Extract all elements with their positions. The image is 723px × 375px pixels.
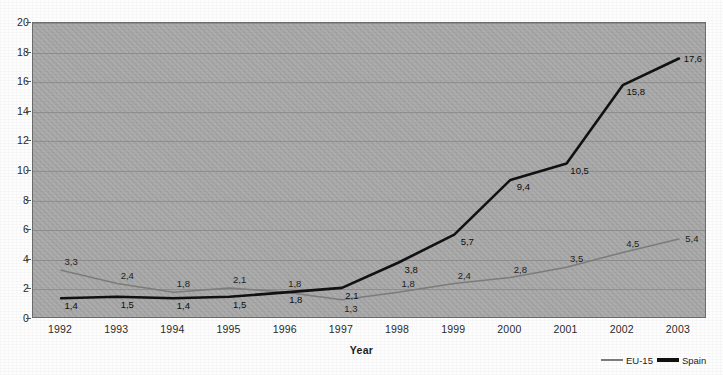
- data-label: 1,4: [64, 300, 77, 311]
- data-label: 5,4: [685, 233, 698, 244]
- legend-label-eu15: EU-15: [626, 355, 653, 366]
- series-lines: [33, 23, 706, 318]
- data-label: 1,8: [289, 294, 302, 305]
- data-label: 1,3: [344, 302, 357, 313]
- legend-item-spain: Spain: [657, 355, 706, 366]
- data-label: 2,1: [233, 273, 246, 284]
- line-chart: 02468101214161820 1992199319941995199619…: [0, 0, 723, 375]
- x-axis-tick-label: 1997: [314, 323, 368, 335]
- x-axis-tick-label: 2000: [482, 323, 536, 335]
- legend-swatch-spain-icon: [657, 358, 679, 362]
- y-axis-tick-mark: [26, 200, 31, 201]
- data-label: 3,3: [64, 256, 77, 267]
- x-axis-tick-label: 1993: [89, 323, 143, 335]
- y-axis-tick-mark: [26, 170, 31, 171]
- data-label: 4,5: [626, 238, 639, 249]
- data-label: 2,4: [121, 269, 134, 280]
- x-axis-tick-label: 2001: [539, 323, 593, 335]
- y-axis-tick-mark: [26, 81, 31, 82]
- data-label: 9,4: [517, 180, 530, 191]
- data-label: 1,5: [233, 298, 246, 309]
- x-axis-tick-label: 2003: [651, 323, 705, 335]
- y-axis-tick-mark: [26, 140, 31, 141]
- y-axis-tick-mark: [26, 22, 31, 23]
- x-axis-tick-label: 1998: [370, 323, 424, 335]
- y-axis-tick-mark: [26, 52, 31, 53]
- legend-item-eu15: EU-15: [601, 355, 653, 366]
- data-label: 3,8: [404, 263, 417, 274]
- legend-label-spain: Spain: [682, 355, 706, 366]
- data-label: 17,6: [684, 52, 703, 63]
- x-axis-tick-label: 1999: [426, 323, 480, 335]
- data-label: 2,1: [345, 289, 358, 300]
- data-label: 2,4: [458, 269, 471, 280]
- series-line-eu-15: [61, 239, 679, 300]
- x-axis-tick-label: 1995: [202, 323, 256, 335]
- chart-legend: EU-15 Spain: [598, 352, 709, 368]
- data-label: 1,8: [288, 278, 301, 289]
- x-axis-tick-label: 1992: [33, 323, 87, 335]
- legend-swatch-eu15-icon: [601, 359, 623, 361]
- data-label: 3,5: [570, 253, 583, 264]
- data-label: 15,8: [627, 86, 646, 97]
- y-axis-tick-mark: [26, 288, 31, 289]
- data-label: 1,8: [177, 278, 190, 289]
- data-label: 1,8: [401, 278, 414, 289]
- data-label: 10,5: [570, 164, 589, 175]
- x-axis-tick-label: 2002: [595, 323, 649, 335]
- y-axis-tick-mark: [26, 111, 31, 112]
- x-axis-tick-label: 1994: [145, 323, 199, 335]
- data-label: 1,4: [177, 300, 190, 311]
- y-axis-tick-mark: [26, 229, 31, 230]
- y-axis-tick-mark: [26, 259, 31, 260]
- y-axis-tick-mark: [26, 318, 31, 319]
- x-axis-tick-label: 1996: [258, 323, 312, 335]
- chart-page: 02468101214161820 1992199319941995199619…: [0, 0, 723, 375]
- data-label: 2,8: [514, 263, 527, 274]
- data-label: 5,7: [461, 235, 474, 246]
- data-label: 1,5: [121, 298, 134, 309]
